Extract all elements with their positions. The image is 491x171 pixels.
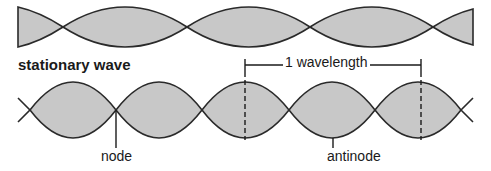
stationary-wave-diagram bbox=[0, 0, 491, 171]
antinode-label: antinode bbox=[327, 148, 381, 164]
diagram-title: stationary wave bbox=[18, 56, 131, 73]
top-wave bbox=[18, 7, 473, 47]
node-label: node bbox=[101, 148, 132, 164]
wavelength-label: 1 wavelength bbox=[283, 54, 370, 70]
